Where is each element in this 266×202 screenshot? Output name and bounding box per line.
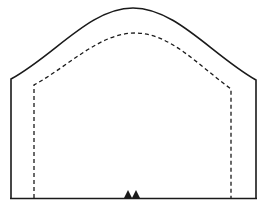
background xyxy=(0,0,266,202)
tunnel-cross-section-diagram xyxy=(0,0,266,202)
